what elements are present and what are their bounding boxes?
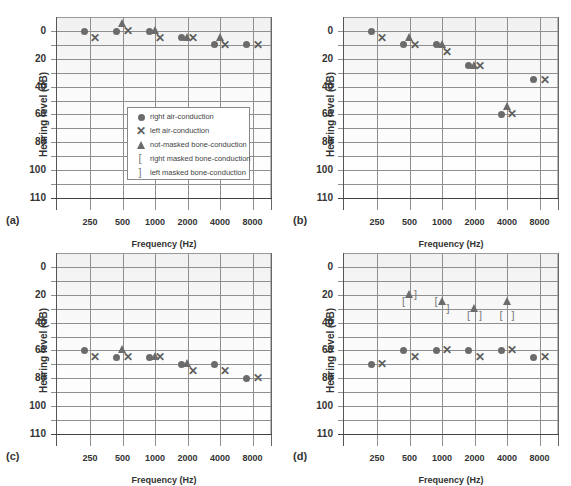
legend-label: not-masked bone-conduction <box>150 140 247 149</box>
grid-line-h <box>338 156 559 157</box>
y-axis-label: Hearing level (dB) <box>38 296 49 406</box>
y-tick-label: 110 <box>16 428 46 439</box>
legend-entry: not-masked bone-conduction <box>128 138 251 152</box>
legend-entry: ]left masked bone-conduction <box>128 166 251 180</box>
grid-line-v <box>90 17 91 210</box>
x-tick-label: 8000 <box>233 217 273 227</box>
circle-marker-icon <box>433 347 440 354</box>
grid-line-h <box>338 184 559 185</box>
cross-marker-icon: ✕ <box>90 31 100 45</box>
close-bracket-marker-icon: ] <box>444 302 452 315</box>
x-tick-label: 8000 <box>520 217 560 227</box>
legend-symbol <box>136 110 146 124</box>
x-axis-label: Frequency (Hz) <box>104 475 224 485</box>
grid-line-h <box>51 267 272 268</box>
grid-line-h <box>338 337 559 338</box>
grid-line-h <box>338 392 559 393</box>
grid-line-h <box>338 170 559 171</box>
panel-label: (c) <box>6 450 19 462</box>
panel-label: (b) <box>293 214 307 226</box>
grid-line-h <box>51 364 272 365</box>
grid-line-h <box>338 59 559 60</box>
triangle-marker-icon <box>183 359 191 367</box>
open-bracket-marker-icon: [ <box>497 309 505 322</box>
cross-marker-icon: ✕ <box>377 31 387 45</box>
circle-marker-icon <box>368 28 375 35</box>
triangle-marker-icon <box>503 102 511 110</box>
legend-symbol: ✕ <box>136 124 146 138</box>
plot-area: 0204060801001102505001000200040008000✕✕✕… <box>56 253 272 446</box>
circle-marker-icon <box>498 347 505 354</box>
grid-line-h <box>51 281 272 282</box>
y-axis <box>343 253 344 446</box>
grid-line-h <box>51 378 272 379</box>
grid-line-h <box>338 406 559 407</box>
y-tick-label: 0 <box>303 261 333 272</box>
circle-marker-icon <box>211 361 218 368</box>
grid-line-v <box>475 17 476 210</box>
legend-label: left air-conduction <box>150 126 209 135</box>
circle-marker-icon <box>465 347 472 354</box>
y-axis <box>56 253 57 446</box>
circle-marker-icon <box>138 114 145 121</box>
right-border <box>558 17 559 210</box>
legend-entry: right air-conduction <box>128 110 251 124</box>
grid-line-h <box>338 267 559 268</box>
circle-marker-icon <box>498 111 505 118</box>
cross-marker-icon: ✕ <box>220 364 230 378</box>
open-bracket-marker-icon: [ <box>400 295 408 308</box>
grid-line-h <box>51 323 272 324</box>
triangle-marker-icon <box>438 40 446 48</box>
grid-line-h <box>51 101 272 102</box>
cross-marker-icon: ✕ <box>475 350 485 364</box>
circle-marker-icon <box>243 375 250 382</box>
grid-line-h <box>338 378 559 379</box>
y-tick-label: 110 <box>16 192 46 203</box>
legend-entry: ✕left air-conduction <box>128 124 251 138</box>
circle-marker-icon <box>211 41 218 48</box>
circle-marker-icon <box>368 361 375 368</box>
circle-marker-icon <box>400 347 407 354</box>
grid-line-v <box>253 253 254 446</box>
right-border <box>271 17 272 210</box>
y-tick-label: 0 <box>303 25 333 36</box>
grid-line-v <box>540 17 541 210</box>
open-bracket-marker-icon: [ <box>465 309 473 322</box>
triangle-marker-icon <box>216 33 224 41</box>
legend-entry: [right masked bone-conduction <box>128 152 251 166</box>
x-tick-label: 8000 <box>520 453 560 463</box>
grid-line-h <box>338 420 559 421</box>
open-bracket-marker-icon: [ <box>432 295 440 308</box>
legend-symbol: ] <box>136 166 146 180</box>
y-tick-label: 0 <box>16 25 46 36</box>
panel-label: (a) <box>6 214 19 226</box>
right-border <box>271 253 272 446</box>
grid-line-h <box>51 73 272 74</box>
cross-marker-icon: ✕ <box>540 350 550 364</box>
y-axis <box>56 17 57 210</box>
plot-area: 0204060801001102505001000200040008000✕✕✕… <box>343 253 559 446</box>
circle-marker-icon <box>530 354 537 361</box>
panel-c: 0204060801001102505001000200040008000✕✕✕… <box>0 236 285 479</box>
cross-marker-icon: ✕ <box>253 38 263 52</box>
grid-line-v <box>123 17 124 210</box>
triangle-marker-icon <box>137 141 145 149</box>
plot-area: 0204060801001102505001000200040008000✕✕✕… <box>56 17 272 210</box>
close-bracket-marker-icon: ] <box>136 166 144 179</box>
x-axis <box>51 434 272 435</box>
close-bracket-marker-icon: ] <box>412 288 420 301</box>
y-axis-label: Hearing level (dB) <box>325 60 336 170</box>
grid-line-h <box>338 87 559 88</box>
grid-line-v <box>377 17 378 210</box>
grid-line-h <box>338 114 559 115</box>
grid-line-v <box>188 253 189 446</box>
triangle-marker-icon <box>151 352 159 360</box>
x-axis <box>338 434 559 435</box>
y-tick-label: 110 <box>303 192 333 203</box>
legend-symbol: [ <box>136 152 146 166</box>
right-border <box>558 253 559 446</box>
panel-a: 0204060801001102505001000200040008000✕✕✕… <box>0 0 285 243</box>
grid-line-h <box>338 101 559 102</box>
open-bracket-marker-icon: [ <box>136 152 144 165</box>
grid-line-h <box>51 184 272 185</box>
